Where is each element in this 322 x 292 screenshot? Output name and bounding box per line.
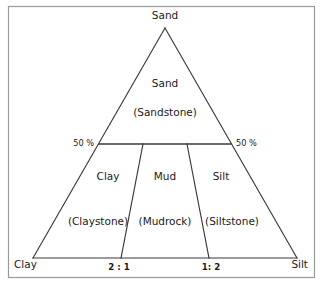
corner-label-clay: Clay — [14, 258, 37, 270]
percent-label-right: 50 % — [236, 138, 257, 148]
ratio-tick-right: 1: 2 — [202, 262, 220, 272]
field-rock-siltstone: (Siltstone) — [205, 215, 259, 227]
figure-border — [9, 7, 315, 278]
field-rock-mudrock: (Mudrock) — [139, 215, 192, 227]
field-label-clay: Clay — [97, 170, 120, 182]
percent-label-left: 50 % — [73, 138, 94, 148]
field-rock-sandstone: (Sandstone) — [133, 106, 197, 118]
ratio-tick-left: 2 : 1 — [108, 262, 129, 272]
field-label-sand: Sand — [152, 77, 178, 89]
field-label-mud: Mud — [154, 170, 176, 182]
apex-label-sand: Sand — [152, 9, 178, 21]
ternary-diagram-figure: Sand Clay Silt 50 % 50 % 2 : 1 1: 2 Sand… — [0, 0, 322, 292]
field-rock-claystone: (Claystone) — [68, 215, 128, 227]
ternary-diagram-canvas: Sand Clay Silt 50 % 50 % 2 : 1 1: 2 Sand… — [0, 0, 322, 292]
corner-label-silt: Silt — [291, 258, 308, 270]
field-label-silt: Silt — [213, 170, 230, 182]
